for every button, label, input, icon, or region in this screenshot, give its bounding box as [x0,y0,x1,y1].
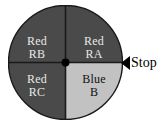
wheel-svg [8,5,123,120]
spinner-wheel[interactable]: Red RB Red RA Red RC Blue B [8,5,123,120]
left-triangle-pointer-icon [121,56,130,70]
wheel-hub [62,59,70,67]
sector-red-rb[interactable] [9,6,66,63]
sector-red-rc[interactable] [9,63,66,120]
sector-blue-b[interactable] [66,63,123,120]
stop-label: Stop [131,55,157,71]
sector-red-ra[interactable] [66,6,123,63]
stop-marker: Stop [121,53,157,73]
spinner-diagram: Red RB Red RA Red RC Blue B Stop [0,0,168,130]
